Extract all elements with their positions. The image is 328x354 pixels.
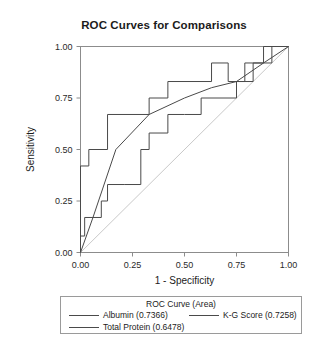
y-tick-label-0: 0.00	[55, 248, 73, 258]
y-tick-label-4: 1.00	[55, 42, 73, 52]
legend-box: ROC Curve (Area) Albumin (0.7366) K-G Sc…	[60, 296, 302, 334]
x-tick-label-3: 0.75	[228, 260, 246, 270]
chance-diagonal-line	[81, 47, 289, 253]
legend-label-albumin: Albumin (0.7366)	[103, 310, 168, 320]
legend-label-total-protein: Total Protein (0.6478)	[103, 322, 184, 332]
x-tick-label-4: 1.00	[280, 260, 298, 270]
y-tick-label-3: 0.75	[55, 93, 73, 103]
legend-line-swatch-total-protein	[69, 327, 99, 328]
y-tick-label-1: 0.25	[55, 196, 73, 206]
legend-item-total-protein: Total Protein (0.6478)	[69, 322, 184, 332]
x-tick-label-0: 0.00	[72, 260, 90, 270]
y-axis-title: Sensitivity	[25, 127, 36, 172]
x-axis-title: 1 - Specificity	[155, 275, 214, 286]
x-tick-label-2: 0.50	[176, 260, 194, 270]
legend-label-kg-score: K-G Score (0.7258)	[223, 310, 297, 320]
roc-curve-group	[81, 47, 289, 253]
legend-line-swatch-albumin	[69, 315, 99, 316]
legend-item-kg-score: K-G Score (0.7258)	[189, 310, 297, 320]
legend-item-albumin: Albumin (0.7366)	[69, 310, 168, 320]
legend-heading: ROC Curve (Area)	[61, 299, 301, 309]
x-tick-label-1: 0.25	[124, 260, 142, 270]
tick-label-group: 0.000.250.500.751.000.000.250.500.751.00	[55, 42, 297, 270]
legend-line-swatch-kg-score	[189, 315, 219, 316]
roc-chart-figure: ROC Curves for Comparisons 0.000.250.500…	[0, 0, 328, 354]
y-tick-label-2: 0.50	[55, 145, 73, 155]
